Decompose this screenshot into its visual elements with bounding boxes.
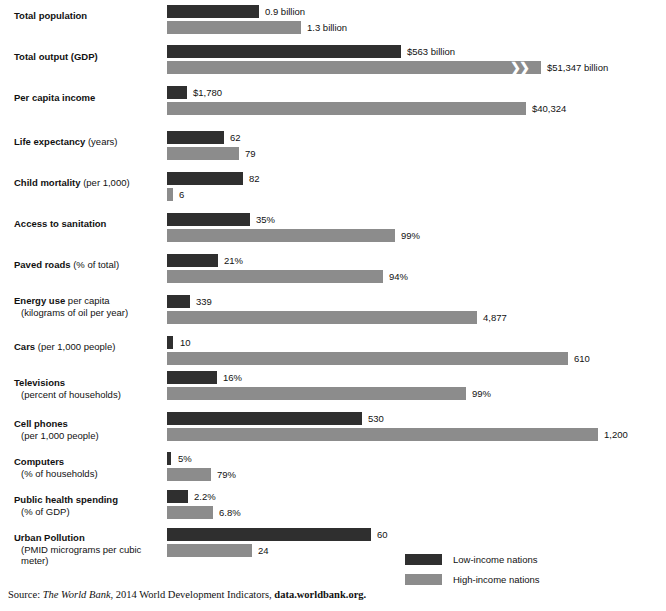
legend-item: Low-income nations xyxy=(405,551,645,567)
bar-chart: Total population0.9 billion1.3 billionTo… xyxy=(0,0,666,578)
source-publication: The World Bank xyxy=(43,589,111,600)
bar-low-income xyxy=(167,371,217,384)
source-url: data.worldbank.org. xyxy=(274,589,366,600)
bar-value-high-income: 6 xyxy=(179,188,184,201)
bar-value-high-income: 79 xyxy=(245,147,256,160)
category-label-main: Child mortality xyxy=(14,177,81,188)
category-label: Paved roads (% of total) xyxy=(14,259,164,271)
category-label-sub: (PMID micrograms per cubic meter) xyxy=(14,544,164,567)
category-label: Cars (per 1,000 people) xyxy=(14,341,164,353)
category-label-qualifier: (% of total) xyxy=(71,259,120,270)
category-label-main: Energy use xyxy=(14,295,65,306)
category-label: Computers(% of households) xyxy=(14,456,164,479)
category-label-main: Cars xyxy=(14,341,35,352)
bar-high-income xyxy=(167,188,173,201)
legend-swatch-icon xyxy=(405,554,442,565)
bar-value-low-income: 21% xyxy=(224,254,243,267)
bar-high-income xyxy=(167,428,598,441)
category-label-main: Access to sanitation xyxy=(14,218,106,229)
category-label: Energy use per capita(kilograms of oil p… xyxy=(14,295,164,318)
category-label-qualifier: (per 1,000 people) xyxy=(35,341,115,352)
category-label-main: Computers xyxy=(14,456,64,467)
category-label-main: Total output (GDP) xyxy=(14,51,98,62)
bar-low-income xyxy=(167,528,371,541)
bar-high-income xyxy=(167,270,383,283)
axis-break-icon: ❯❯ xyxy=(510,61,521,74)
category-label: Total population xyxy=(14,10,164,22)
category-label: Total output (GDP) xyxy=(14,51,164,63)
category-label-sub: (% of GDP) xyxy=(14,506,164,518)
category-label-main: Total population xyxy=(14,10,87,21)
bar-low-income xyxy=(167,490,188,503)
bar-value-low-income: 82 xyxy=(249,172,260,185)
category-label: Per capita income xyxy=(14,92,164,104)
category-label: Child mortality (per 1,000) xyxy=(14,177,164,189)
bar-high-income xyxy=(167,147,239,160)
bar-low-income xyxy=(167,5,259,18)
bar-low-income xyxy=(167,131,224,144)
bar-value-high-income: $51,347 billion xyxy=(547,61,608,74)
bar-value-low-income: 60 xyxy=(377,528,388,541)
bar-value-high-income: 6.8% xyxy=(219,506,241,519)
bar-low-income xyxy=(167,254,218,267)
bar-high-income xyxy=(167,468,211,481)
category-label: Urban Pollution(PMID micrograms per cubi… xyxy=(14,532,164,567)
bar-value-low-income: $1,780 xyxy=(193,86,222,99)
chart-legend: Low-income nationsHigh-income nations xyxy=(405,551,645,591)
bar-value-low-income: 0.9 billion xyxy=(265,5,305,18)
legend-label: Low-income nations xyxy=(453,554,538,565)
bar-value-low-income: 5% xyxy=(178,452,192,465)
bar-high-income xyxy=(167,506,213,519)
category-label: Access to sanitation xyxy=(14,218,164,230)
bar-value-low-income: $563 billion xyxy=(407,45,455,58)
bar-value-high-income: 1.3 billion xyxy=(307,21,347,34)
bar-value-high-income: 1,200 xyxy=(604,428,628,441)
bar-low-income xyxy=(167,336,173,349)
category-label-main: Per capita income xyxy=(14,92,95,103)
category-label-sub: (kilograms of oil per year) xyxy=(14,307,164,319)
bar-value-high-income: $40,324 xyxy=(532,102,566,115)
bar-value-high-income: 610 xyxy=(574,352,590,365)
bar-value-high-income: 94% xyxy=(389,270,408,283)
category-label-main: Cell phones xyxy=(14,418,68,429)
bar-value-low-income: 16% xyxy=(223,371,242,384)
source-prefix: Source: xyxy=(8,589,43,600)
legend-swatch-icon xyxy=(405,574,442,585)
bar-high-income xyxy=(167,229,395,242)
category-label: Cell phones(per 1,000 people) xyxy=(14,418,164,441)
bar-value-low-income: 530 xyxy=(368,412,384,425)
bar-high-income xyxy=(167,311,477,324)
bar-low-income xyxy=(167,412,362,425)
bar-value-low-income: 35% xyxy=(256,213,275,226)
bar-high-income xyxy=(167,61,541,74)
legend-label: High-income nations xyxy=(453,574,540,585)
bar-low-income xyxy=(167,452,171,465)
bar-value-high-income: 99% xyxy=(401,229,420,242)
category-label-sub: (percent of households) xyxy=(14,389,164,401)
category-label-qualifier: (per 1,000) xyxy=(81,177,130,188)
category-label-sub: (% of households) xyxy=(14,468,164,480)
bar-value-low-income: 10 xyxy=(180,336,191,349)
category-label-main: Televisions xyxy=(14,377,65,388)
category-label-sub: (per 1,000 people) xyxy=(14,430,164,442)
bar-value-high-income: 99% xyxy=(472,387,491,400)
bar-value-high-income: 79% xyxy=(217,468,236,481)
bar-high-income xyxy=(167,21,301,34)
bar-value-high-income: 4,877 xyxy=(483,311,507,324)
category-label: Life expectancy (years) xyxy=(14,136,164,148)
bar-low-income xyxy=(167,45,401,58)
bar-value-low-income: 2.2% xyxy=(194,490,216,503)
bar-high-income xyxy=(167,544,252,557)
bar-low-income xyxy=(167,86,187,99)
bar-high-income xyxy=(167,352,568,365)
category-label: Public health spending(% of GDP) xyxy=(14,494,164,517)
category-label: Televisions(percent of households) xyxy=(14,377,164,400)
bar-low-income xyxy=(167,213,250,226)
category-label-qualifier: (years) xyxy=(85,136,117,147)
source-note: Source: The World Bank, 2014 World Devel… xyxy=(8,589,366,600)
bar-value-low-income: 339 xyxy=(196,295,212,308)
bar-value-high-income: 24 xyxy=(258,544,269,557)
legend-item: High-income nations xyxy=(405,571,645,587)
bar-low-income xyxy=(167,172,243,185)
bar-low-income xyxy=(167,295,190,308)
